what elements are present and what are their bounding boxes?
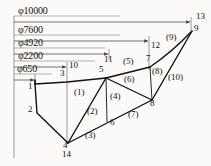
node-label-9: 9 xyxy=(194,24,199,33)
dimension-label-4920: φ4920 xyxy=(18,38,43,48)
node-label-8: 8 xyxy=(150,99,155,108)
node-label-1: 1 xyxy=(28,82,33,91)
node-label-2: 2 xyxy=(28,105,33,114)
node-label-6: 6 xyxy=(110,118,115,127)
member-label-2: (2) xyxy=(87,107,98,116)
member-label-3: (3) xyxy=(85,131,96,140)
node-label-3: 3 xyxy=(60,69,65,78)
node-label-10: 10 xyxy=(69,61,78,70)
member-label-1: (1) xyxy=(74,88,85,97)
node-label-5: 5 xyxy=(99,65,104,74)
member-label-4: (4) xyxy=(110,92,121,101)
dimension-label-650: φ650 xyxy=(17,64,37,74)
node-label-13: 13 xyxy=(196,12,205,21)
node-label-11: 11 xyxy=(104,55,113,64)
member-label-10: (10) xyxy=(168,73,183,82)
dimension-label-2200: φ2200 xyxy=(18,51,43,61)
node-label-12: 12 xyxy=(151,41,160,50)
dimension-label-10000: φ10000 xyxy=(18,6,48,16)
member-label-5: (5) xyxy=(123,57,134,66)
member-label-6: (6) xyxy=(124,75,135,84)
member-label-8: (8) xyxy=(152,67,163,76)
member-label-7: (7) xyxy=(128,110,139,119)
node-label-7: 7 xyxy=(146,54,151,63)
dimension-label-7600: φ7600 xyxy=(18,25,43,35)
member-label-9: (9) xyxy=(166,33,177,42)
truss-diagram: φ10000 φ7600 φ4920 φ2200 φ650 1 2 3 4 5 … xyxy=(0,0,211,166)
node-label-14: 14 xyxy=(62,150,71,159)
